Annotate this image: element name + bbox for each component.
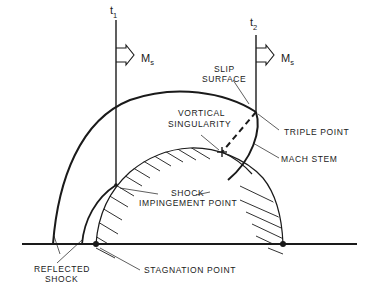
vortical-label-2: SINGULARITY (168, 119, 231, 129)
shock-arrow-1-icon (116, 45, 134, 65)
shock-diagram: t1 t2 Ms Ms SLIP SURFACE VORTICAL SINGUL… (0, 0, 374, 301)
shock-impingement-label-1: SHOCK (171, 188, 204, 198)
slip-surface (222, 112, 256, 152)
stagnation-point-label: STAGNATION POINT (144, 265, 236, 275)
leader-lines (54, 80, 279, 270)
t1-label: t1 (110, 4, 117, 20)
shock-arrow-2-icon (256, 45, 274, 65)
ms-label-2: Ms (281, 52, 294, 67)
mach-stem (228, 112, 258, 180)
reflected-shock-label-2: SHOCK (45, 274, 78, 284)
slip-surface-label-1: SLIP (214, 64, 235, 74)
vortical-singularity-marker (217, 147, 227, 157)
shock-impingement-label-2: IMPINGEMENT POINT (139, 198, 237, 208)
triple-point-label: TRIPLE POINT (284, 127, 349, 137)
stagnation-point-left (93, 241, 99, 247)
stagnation-point-right (280, 241, 286, 247)
mach-stem-label: MACH STEM (281, 154, 337, 164)
ms-label-1: Ms (141, 52, 154, 67)
impingement-point (114, 183, 118, 187)
reflected-shock-label-1: REFLECTED (34, 264, 90, 274)
t2-label: t2 (250, 16, 257, 32)
vortical-label-1: VORTICAL (178, 108, 225, 118)
slip-surface-label-2: SURFACE (202, 74, 246, 84)
